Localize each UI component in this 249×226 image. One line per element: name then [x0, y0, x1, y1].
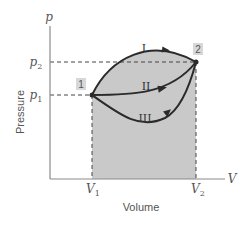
p1-tick-label: p1: [30, 88, 43, 104]
p2-tick-label: p2: [30, 55, 43, 71]
state-2-label: 2: [195, 44, 201, 55]
x-axis-title: Volume: [123, 201, 160, 213]
v1-tick-label: V1: [86, 182, 100, 198]
pv-diagram: 1 2 I II III p V p2 p1 V1 V2 Pressure Vo…: [0, 0, 249, 226]
y-axis-symbol: p: [45, 10, 53, 24]
state-1-point: [90, 93, 95, 98]
v2-tick-label: V2: [191, 182, 205, 198]
state-1-label: 1: [78, 79, 84, 90]
path-I-label: I: [142, 42, 146, 55]
x-axis-symbol: V: [228, 172, 238, 186]
state-2-point: [194, 60, 199, 65]
path-III-label: III: [138, 112, 151, 125]
path-II-label: II: [142, 80, 151, 93]
y-axis-title: Pressure: [14, 90, 26, 134]
